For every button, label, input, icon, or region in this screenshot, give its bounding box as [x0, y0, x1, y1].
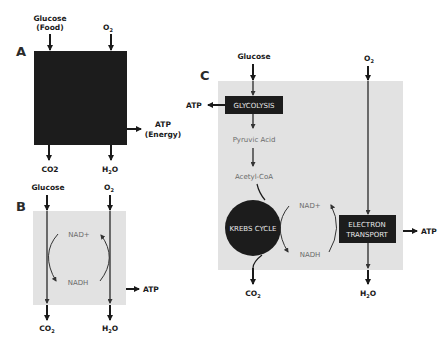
panel-b-oxygen-label: O2: [104, 183, 114, 193]
panel-a: A Glucose (Food) O2 ATP (Energy) CO2 H2O: [16, 14, 181, 175]
panel-c-oxygen-label: O2: [364, 54, 374, 64]
cellular-respiration-diagram: A Glucose (Food) O2 ATP (Energy) CO2 H2O…: [0, 0, 446, 348]
electron-transport-label-1: ELECTRON: [348, 221, 386, 229]
panel-c: C Glucose O2 GLYCOLYSIS ATP Pyruvic Acid…: [186, 52, 437, 299]
panel-a-glucose-label: Glucose: [33, 14, 66, 23]
glycolysis-label: GLYCOLYSIS: [234, 102, 275, 110]
panel-b-nad-plus-label: NAD+: [68, 231, 89, 239]
panel-b-water-label: H2O: [102, 324, 118, 334]
panel-b-atp-label: ATP: [143, 285, 159, 294]
panel-a-atp-label: ATP: [155, 120, 171, 129]
panel-c-glycolysis-atp-label: ATP: [186, 101, 202, 110]
panel-b-glucose-label: Glucose: [31, 183, 64, 192]
panel-c-electron-atp-label: ATP: [421, 227, 437, 236]
panel-a-black-box: [34, 51, 127, 145]
panel-c-letter: C: [200, 68, 210, 83]
pyruvic-acid-label: Pyruvic Acid: [233, 136, 276, 144]
panel-c-glucose-label: Glucose: [237, 52, 270, 61]
panel-a-letter: A: [16, 44, 26, 59]
panel-b-letter: B: [16, 199, 26, 214]
panel-b-nadh-label: NADH: [68, 279, 89, 287]
panel-c-water-label: H2O: [360, 289, 376, 299]
acetyl-coa-label: Acetyl-CoA: [235, 173, 273, 181]
panel-b: B Glucose O2 NAD+ NADH ATP CO2 H2O: [16, 183, 159, 334]
electron-transport-label-2: TRANSPORT: [345, 231, 388, 239]
panel-c-co2-label: CO2: [245, 289, 261, 299]
panel-a-oxygen-label: O2: [103, 23, 113, 33]
panel-a-water-label: H2O: [102, 165, 118, 175]
panel-a-energy-label: (Energy): [145, 130, 181, 139]
panel-c-nadh-label: NADH: [300, 251, 321, 259]
panel-c-nad-plus-label: NAD+: [299, 202, 320, 210]
panel-b-co2-label: CO2: [39, 324, 55, 334]
panel-a-food-label: (Food): [36, 23, 63, 32]
krebs-cycle-label: KREBS CYCLE: [229, 225, 276, 233]
panel-a-co2-label: CO2: [41, 165, 58, 174]
